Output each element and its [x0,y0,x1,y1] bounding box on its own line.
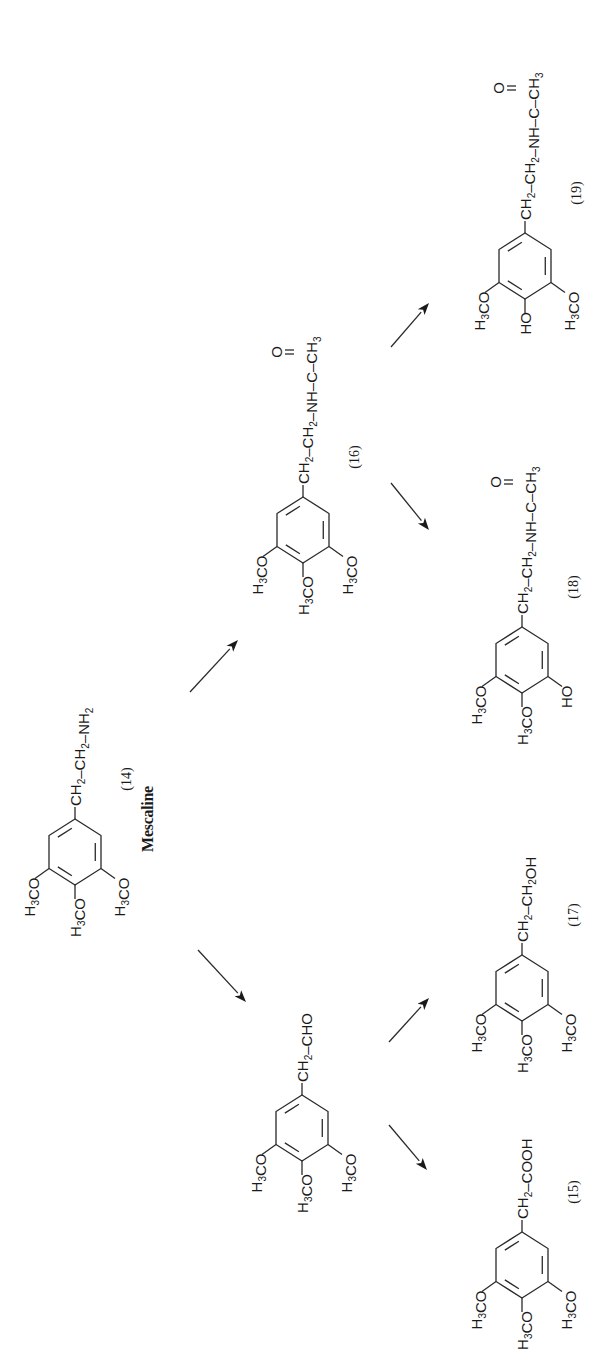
molecule-18: CH2–CH2–NH–C–CH3OH3COH3COHO(18) [468,466,582,745]
arrow-shaft [391,483,421,521]
substituent-left-part: CO [253,556,270,579]
side-chain-subscript: 3 [534,72,545,78]
side-chain-part: CH [295,462,312,484]
side-chain-part: –NH–C–CH [525,78,542,157]
substituent-left-part: H [249,584,266,595]
side-chain-part: –CH [518,557,535,587]
substituent-bond [328,1145,342,1155]
substituent-right: HO [558,686,575,709]
double-bond [505,1280,519,1289]
substituent-middle: H3CO [514,1034,535,1073]
substituent-right-part: H [339,584,356,595]
side-chain-part: –CH [299,427,316,457]
benzene-ring [496,1232,548,1298]
substituent-left: H3CO [21,878,42,917]
substituent-bond [329,547,343,557]
substituent-right-part: CO [562,1014,579,1037]
substituent-bond [485,283,499,293]
arrow-shaft [190,649,230,692]
molecule-19: CH2–CH2–NH–C–CH3OH3COHOH3CO(19) [471,72,585,335]
arrow-head-icon [418,518,429,530]
side-chain-subscript: 3 [312,336,323,342]
side-chain-part: –CHO [298,1013,315,1055]
reaction-diagram: CH2–CH2–NH2H3COH3COH3CO(14)MescalineCH2–… [0,0,613,1364]
side-chain-part: –CH [518,885,535,915]
arrow-14-to-16 [190,640,238,692]
substituent-middle-part: H [514,1062,531,1073]
double-bond [505,1003,519,1012]
substituent-left-part: CO [25,878,42,901]
substituent-left: H3CO [471,292,492,331]
side-chain: CH2–CH2–NH–C–CH3 [295,336,323,484]
double-bond [285,1104,299,1113]
substituent-right: H3CO [558,1291,579,1330]
substituent-middle: H3CO [294,1174,315,1213]
substituent-left-part: CO [472,1014,489,1037]
arrow-shaft [198,950,238,993]
substituent-bond [482,1005,496,1015]
side-chain: CH2–CHO [294,1013,315,1082]
substituent-right-part: H [561,320,578,331]
substituent-left-part: CO [475,292,492,315]
substituent-right: H3CO [561,292,582,331]
molecule-16: CH2–CH2–NH–C–CH3OH3COH3COH3CO(16) [249,336,363,615]
side-chain-subscript: 2 [84,707,95,713]
molecule-17: CH2–CH2OHH3COH3COH3CO(17) [468,857,582,1073]
double-bond [505,636,519,645]
substituent-middle-part: CO [299,576,316,599]
substituent-right-part: CO [565,292,582,315]
side-chain-part: –CH [521,163,538,193]
side-chain-part: –NH [75,713,92,743]
arrow-shaft [389,1007,421,1042]
substituent-middle-part: H [514,1339,531,1350]
substituent-right: H3CO [339,556,360,595]
side-chain-part: –NH–C–CH [303,342,320,421]
substituent-middle-part: H [514,734,531,745]
substituent-bond [548,677,562,687]
substituent-middle-part: H [67,926,84,937]
substituent-right: H3CO [338,1154,359,1193]
substituent-middle: H3CO [514,706,535,745]
side-chain-part: OH [522,857,539,880]
substituent-middle-part: H [294,1202,311,1213]
substituent-bond [35,869,49,879]
side-chain-part: –CH [71,749,88,779]
double-bond [58,828,72,837]
substituent-bond [482,1282,496,1292]
substituent-left-part: CO [472,1291,489,1314]
side-chain-part: CH [294,1060,311,1082]
side-chain-part: CH [517,198,534,220]
double-bond [58,867,72,876]
benzene-ring [496,627,548,693]
side-chain: CH2–CH2–NH–C–CH3 [514,466,542,614]
double-bond [285,1143,299,1152]
benzene-ring [276,1095,328,1161]
side-chain-subscript: 3 [531,466,542,472]
compound-number: (18) [566,575,582,599]
substituent-left: H3CO [468,1291,489,1330]
substituent-right-part: CO [342,1154,359,1177]
benzene-ring [49,819,101,885]
substituent-left-part: H [248,1182,265,1193]
substituent-left-part: H [21,906,38,917]
arrow-16-to-18 [391,483,429,530]
substituent-right-part: CO [115,878,132,901]
substituent-right-part: H [338,1182,355,1193]
side-chain-part: CH [514,920,531,942]
molecule-aldehyde: CH2–CHOH3COH3COH3CO [248,1013,359,1213]
substituent-left-part: CO [472,686,489,709]
compound-number: (14) [119,767,135,791]
side-chain-part: CH [514,592,531,614]
compound-number: (19) [569,181,585,205]
substituent-right-part: HO [558,686,575,709]
substituent-right-part: H [558,1319,575,1330]
compound-number: (17) [566,903,582,927]
substituent-bond [101,869,115,879]
carbonyl-oxygen: O [268,346,285,358]
substituent-bond [548,1282,562,1292]
molecule-15: CH2–COOHH3COH3COH3CO(15) [468,1138,582,1349]
double-bond [505,964,519,973]
substituent-left-part: H [468,714,485,725]
substituent-middle: H3CO [514,1311,535,1350]
substituent-middle: HO [517,312,534,335]
